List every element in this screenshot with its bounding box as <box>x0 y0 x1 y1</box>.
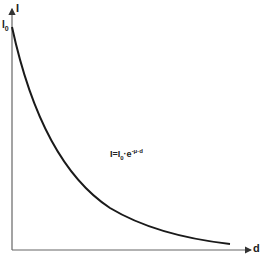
x-axis-label: d <box>253 242 260 254</box>
decay-chart <box>0 0 263 255</box>
y-axis-label: I <box>16 2 19 14</box>
i0-label: I0 <box>2 19 9 32</box>
decay-curve <box>12 27 230 244</box>
formula-annotation: I=I0·e-μ·d <box>110 148 143 161</box>
